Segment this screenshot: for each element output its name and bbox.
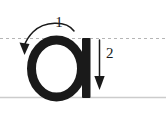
stroke-order-diagram: 1 2	[0, 0, 166, 113]
letter-a-stem	[82, 38, 91, 98]
stroke-1-number: 1	[55, 14, 63, 30]
stroke-2-number: 2	[106, 45, 114, 61]
diagram-canvas: 1 2	[0, 0, 166, 113]
